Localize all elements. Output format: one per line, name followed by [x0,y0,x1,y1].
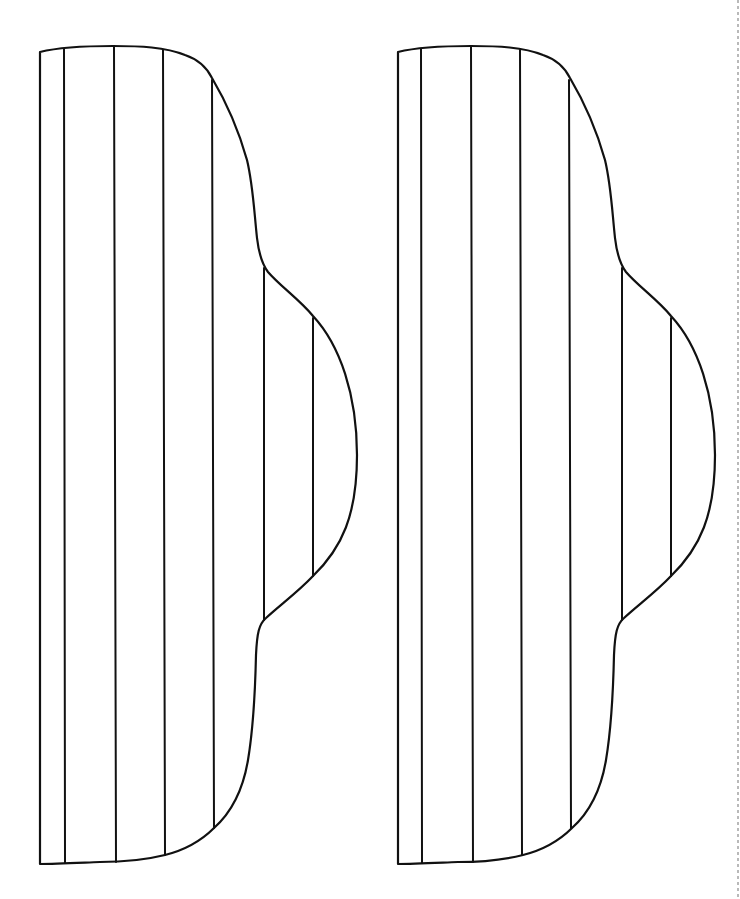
left-shape-outline [39,46,357,864]
right-shape-outline [397,46,715,864]
right-shape-stripe-1 [421,49,422,863]
left-shape [39,46,357,864]
left-shape-stripe-1 [64,49,65,863]
right-shape [397,46,715,864]
diagram-canvas [0,0,740,899]
